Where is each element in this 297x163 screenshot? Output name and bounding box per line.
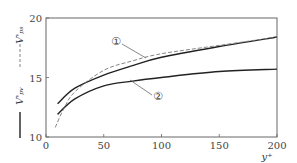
- annotation-2: ②: [153, 90, 163, 103]
- legend-solid-label: V'ₚᵥ: [14, 87, 25, 105]
- x-tick-label: 100: [152, 140, 171, 151]
- x-tick-label: 0: [43, 140, 49, 151]
- series-line-dashed: [55, 37, 277, 127]
- annotation-2-leader: [130, 80, 152, 95]
- y-tick-label: 20: [29, 13, 42, 24]
- x-tick-label: 150: [210, 140, 229, 151]
- legend-dashed-label: V'ₚₛ: [14, 26, 25, 43]
- x-axis-label: y⁺: [261, 151, 273, 162]
- chart: 050100150200101520y⁺ ①②V'ₚₛV'ₚᵥ: [0, 0, 297, 163]
- x-tick-label: 200: [267, 140, 286, 151]
- series-line-2: [58, 69, 277, 114]
- annotation-1-leader: [122, 44, 146, 58]
- x-tick-label: 50: [97, 140, 110, 151]
- y-tick-label: 15: [29, 73, 42, 84]
- annotation-1: ①: [111, 35, 121, 48]
- y-tick-label: 10: [29, 132, 42, 143]
